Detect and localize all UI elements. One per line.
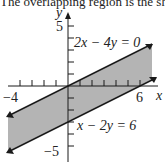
line1-label: 2x − 4y = 0 bbox=[74, 35, 140, 50]
y-axis-arrow-icon bbox=[65, 12, 71, 19]
x-axis-label: x bbox=[155, 88, 163, 103]
tick-label-y-neg5: −5 bbox=[44, 144, 59, 159]
y-axis-label: y bbox=[54, 5, 63, 20]
line2-label: x − 2y = 6 bbox=[76, 118, 136, 133]
chart-canvas: y 5 −5 −4 6 x 2x − 4y = 0 x − 2y = 6 bbox=[0, 0, 165, 162]
tick-label-x-6: 6 bbox=[136, 90, 143, 105]
shaded-region bbox=[8, 44, 152, 152]
tick-label-x-neg4: −4 bbox=[3, 90, 18, 105]
tick-label-y-5: 5 bbox=[56, 19, 63, 34]
